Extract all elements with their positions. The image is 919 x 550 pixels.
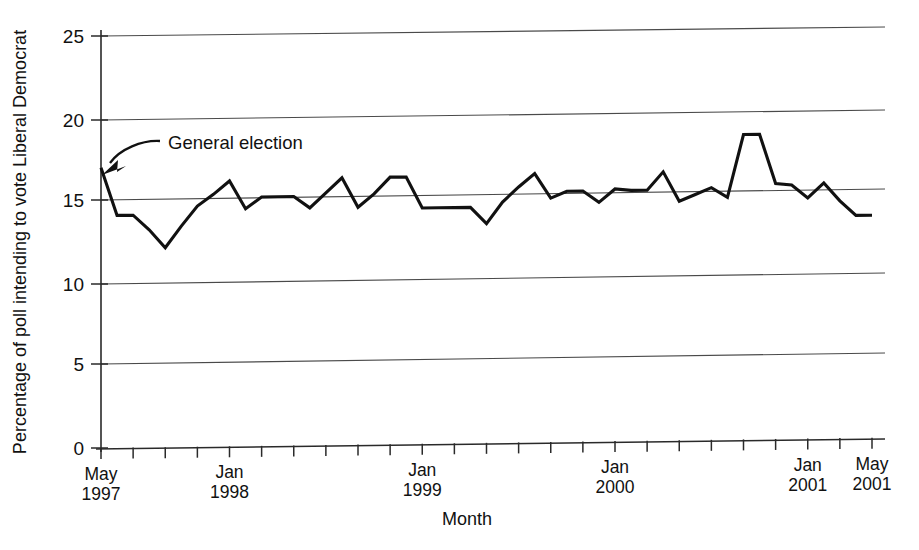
axes bbox=[96, 30, 885, 452]
y-tick-label: 5 bbox=[73, 354, 84, 375]
y-tick-label: 15 bbox=[63, 190, 84, 211]
annotation-arrow-head bbox=[102, 160, 126, 175]
x-tick-label: 1997 bbox=[82, 484, 121, 504]
x-tick-label: 2000 bbox=[596, 477, 635, 497]
x-axis-line bbox=[96, 439, 885, 449]
x-tick-label: Jan bbox=[408, 460, 436, 480]
gridline-25 bbox=[101, 27, 885, 36]
y-tick-labels: 25 20 15 10 5 0 bbox=[63, 26, 84, 459]
y-tick-label: 25 bbox=[63, 26, 84, 47]
x-tick-label: Jan bbox=[601, 457, 629, 477]
x-tick-label: 1998 bbox=[210, 482, 249, 502]
chart-figure: 25 20 15 10 5 0 May1997Jan1998Jan1999Jan… bbox=[0, 0, 919, 550]
chart-svg: 25 20 15 10 5 0 May1997Jan1998Jan1999Jan… bbox=[0, 0, 919, 550]
y-tick-label: 10 bbox=[63, 274, 84, 295]
x-tick-label: Jan bbox=[215, 462, 243, 482]
gridline-5 bbox=[101, 353, 885, 364]
y-axis-title: Percentage of poll intending to vote Lib… bbox=[10, 30, 30, 454]
annotation-label: General election bbox=[168, 132, 303, 153]
y-tick-label: 0 bbox=[73, 438, 84, 459]
gridline-10 bbox=[101, 273, 885, 284]
general-election-annotation: General election bbox=[102, 132, 303, 175]
x-tick-label: May bbox=[84, 464, 117, 484]
x-tick-labels: May1997Jan1998Jan1999Jan2000Jan2001May20… bbox=[82, 454, 892, 504]
annotation-arrow-curve bbox=[110, 141, 160, 163]
gridlines bbox=[101, 27, 885, 364]
x-tick-label: May bbox=[855, 454, 888, 474]
x-tick-label: Jan bbox=[794, 455, 822, 475]
y-tickmarks bbox=[91, 36, 108, 448]
x-axis-title: Month bbox=[442, 509, 492, 529]
x-tick-label: 2001 bbox=[853, 474, 892, 494]
gridline-20 bbox=[101, 110, 885, 120]
x-tick-label: 1999 bbox=[403, 480, 442, 500]
x-tick-label: 2001 bbox=[788, 475, 827, 495]
y-tick-label: 20 bbox=[63, 110, 84, 131]
